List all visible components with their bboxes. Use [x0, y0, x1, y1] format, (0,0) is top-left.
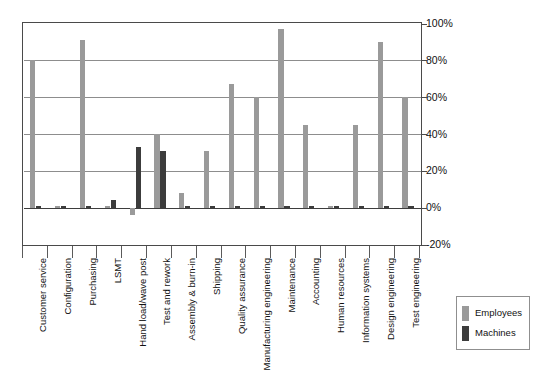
x-axis-label: Hand load/wave post: [138, 258, 148, 347]
x-axis-label: Shipping: [212, 258, 222, 295]
legend-swatch-employees: [462, 306, 469, 321]
legend-item-machines: Machines: [462, 323, 524, 343]
x-axis-label: Assembly & burn-in: [187, 258, 197, 340]
legend: Employees Machines: [456, 296, 530, 350]
x-axis-label: Customer service: [38, 258, 48, 332]
legend-swatch-machines: [462, 326, 469, 341]
x-axis-label: Test and rework: [162, 258, 172, 325]
x-axis-label: Quality assurance: [237, 258, 247, 334]
x-axis-label: Accounting: [311, 258, 321, 305]
x-axis-label: Maintenance: [287, 258, 297, 312]
x-axis-label: Configuration: [63, 258, 73, 315]
x-axis-label: Human resources: [336, 258, 346, 333]
legend-label-employees: Employees: [475, 308, 522, 318]
legend-label-machines: Machines: [475, 328, 516, 338]
x-axis-label: Manufacturing engineering: [262, 258, 272, 371]
x-axis-label: Information systems: [361, 258, 371, 343]
legend-item-employees: Employees: [462, 303, 524, 323]
bar-chart: 100%80%60%40%20%0%-20% Customer serviceC…: [0, 0, 542, 375]
x-axis-label: Purchasing: [88, 258, 98, 306]
x-axis-label: Design engineering: [386, 258, 396, 340]
x-axis-label: Test engineering: [411, 258, 421, 328]
x-axis-label: LSMT: [113, 258, 123, 283]
